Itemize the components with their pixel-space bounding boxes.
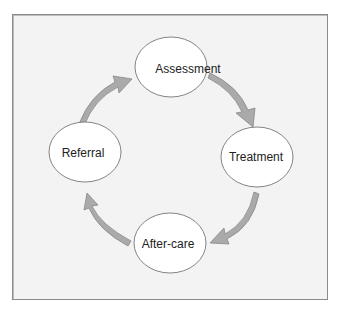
label-treatment: Treatment [211, 150, 301, 164]
label-after-care: After-care [123, 237, 213, 251]
arrow-assessment-to-treatment [208, 73, 255, 127]
label-referral: Referral [38, 146, 128, 160]
label-assessment: Assessment [143, 62, 233, 76]
arrow-treatment-to-after-care [210, 192, 259, 244]
arrow-referral-to-assessment [79, 76, 132, 126]
